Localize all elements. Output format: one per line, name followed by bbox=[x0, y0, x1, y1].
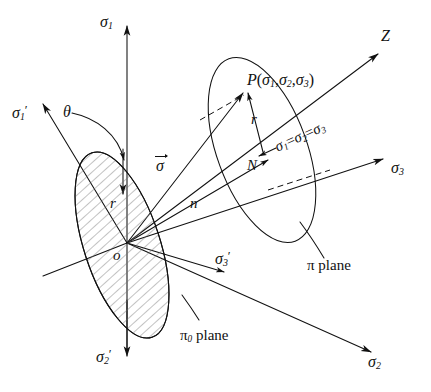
radius-n-arrow bbox=[259, 148, 276, 156]
normal-n-label: n bbox=[190, 196, 198, 211]
pi-plane-label: π plane bbox=[307, 258, 351, 273]
sigma-vector-label: σ bbox=[156, 158, 164, 174]
point-p-label: P(σ1,σ2,σ3) bbox=[247, 72, 314, 89]
pi0-plane-label: π0 plane bbox=[180, 328, 228, 344]
axis-label-sigma2: σ2 bbox=[368, 354, 381, 371]
axis-label-sigma3prime: σ3′ bbox=[215, 250, 231, 268]
axis-label-sigma2prime: σ2′ bbox=[96, 348, 112, 366]
dashed-construction-lines bbox=[200, 95, 330, 190]
axis-label-z: σZ bbox=[381, 28, 390, 44]
stress-space-figure: σ1′ σ1 σ2′ σ3 σ2 σ3′ σZ θ r o σ n N r P(… bbox=[0, 0, 431, 392]
origin-label: o bbox=[113, 248, 121, 263]
axis-label-sigma3: σ3 bbox=[391, 160, 404, 177]
pi-plane-leader bbox=[300, 222, 324, 258]
axis-label-sigma1prime: σ1′ bbox=[12, 104, 28, 122]
theta-label: θ bbox=[63, 104, 71, 120]
dashed-line-to-p bbox=[200, 95, 244, 120]
axis-label-sigma1: σ1 bbox=[100, 14, 113, 31]
point-n-label: N bbox=[247, 158, 257, 173]
radius-label-pi: r bbox=[251, 112, 257, 127]
radius-label-pi0: r bbox=[110, 196, 116, 211]
pi0-plane-leader bbox=[182, 295, 199, 320]
